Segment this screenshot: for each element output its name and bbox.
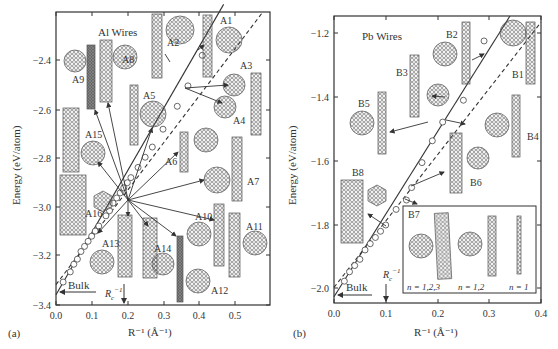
panel-b-label: (b) [293,327,306,340]
data-point [174,103,180,109]
svg-text:B2: B2 [446,29,458,40]
svg-text:A12: A12 [211,285,228,296]
data-point [160,126,166,132]
x-tick-label: 0.3 [483,308,496,319]
x-axis-label-a: R⁻¹ (Å⁻¹) [128,326,172,339]
svg-text:A10: A10 [195,211,212,222]
svg-text:B5: B5 [358,98,370,109]
svg-text:A3: A3 [240,60,252,71]
svg-text:A11: A11 [246,221,263,232]
svg-text:B7: B7 [408,209,420,220]
y-tick-label: −1.4 [311,92,329,103]
svg-text:A16: A16 [85,208,102,219]
svg-text:A4: A4 [233,115,245,126]
svg-text:A2: A2 [167,37,179,48]
x-tick-label: 0.0 [328,308,341,319]
svg-text:A6: A6 [165,156,177,167]
x-tick-label: 0.4 [193,310,206,321]
svg-text:A5: A5 [143,90,155,101]
bulk-label-a: Bulk [68,279,90,291]
svg-text:B3: B3 [396,67,408,78]
svg-text:A9: A9 [72,74,84,85]
svg-text:A7: A7 [247,176,259,187]
data-point [128,175,134,181]
data-point [372,234,378,240]
data-point [367,241,373,247]
svg-text:n = 1: n = 1 [509,282,529,292]
data-point [460,97,466,103]
x-tick-label: 0.1 [380,308,393,319]
data-point [74,256,80,262]
data-point [429,138,435,144]
rc-label-b: Rc−1 [382,267,400,283]
x-tick-label: 0.2 [122,310,135,321]
structure-illustrations-a [60,14,267,302]
data-point [393,206,399,212]
x-tick-label: 0.1 [86,310,99,321]
y-tick-label: −2.4 [33,55,51,66]
y-tick-label: −2.6 [33,105,51,116]
y-tick-label: −1.6 [311,156,329,167]
svg-text:A15: A15 [85,129,102,140]
y-tick-label: −3.4 [33,300,51,311]
rc-label-a: Rc−1 [104,286,122,302]
svg-text:A1: A1 [220,15,232,26]
svg-text:B4: B4 [527,131,539,142]
x-tick-label: 0.3 [158,310,171,321]
panel-a-label: (a) [8,327,21,340]
svg-text:B6: B6 [470,177,482,188]
data-point [378,228,384,234]
y-axis-label-b: Energy (eV/atom) [286,125,299,205]
x-tick-label: 0.0 [50,310,63,321]
data-point [419,160,425,166]
bulk-label-b: Bulk [346,281,368,293]
y-tick-label: −1.8 [311,220,329,231]
structure-illustrations-b [341,20,536,293]
y-tick-label: −3.2 [33,250,51,261]
data-point [362,247,368,253]
panel-a-title: Al Wires [98,26,137,38]
panel-a: 0.00.10.20.30.40.5 −2.4−2.6−2.8−3.0−3.2−… [8,4,270,340]
y-tick-label: −1.2 [311,28,329,39]
data-point [481,38,487,44]
x-tick-label: 0.2 [432,308,445,319]
y-axis-label-a: Energy (eV/atom) [10,125,23,205]
svg-text:n = 1,2: n = 1,2 [458,282,485,292]
x-axis-label-b: R⁻¹ (Å⁻¹) [414,326,458,339]
data-point [67,269,73,275]
x-tick-label: 0.5 [229,310,242,321]
data-point [440,119,446,125]
panel-b: 0.00.10.20.30.4 −1.2−1.4−1.6−1.8−2.0 Pb … [286,16,547,340]
svg-text:A14: A14 [154,243,171,254]
data-point [383,222,389,228]
y-tick-label: −3.0 [33,202,51,213]
data-point [352,263,358,269]
y-tick-label: −2.8 [33,153,51,164]
data-point [96,223,102,229]
svg-text:B1: B1 [512,69,524,80]
data-point [357,256,363,262]
svg-text:n = 1,2,3: n = 1,2,3 [407,282,441,292]
panel-b-title: Pb Wires [362,30,402,42]
data-point [347,269,353,275]
svg-text:B8: B8 [352,167,364,178]
svg-text:A13: A13 [102,238,119,249]
y-tick-label: −2.0 [311,283,329,294]
data-point [60,279,66,285]
data-point [149,144,155,150]
x-tick-label: 0.4 [535,308,548,319]
svg-text:A8: A8 [122,54,134,65]
figure: 0.00.10.20.30.40.5 −2.4−2.6−2.8−3.0−3.2−… [0,0,558,349]
